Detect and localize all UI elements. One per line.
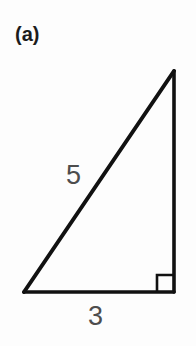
right-angle-marker-icon (157, 275, 174, 292)
base-length-label: 3 (88, 303, 103, 330)
right-triangle-diagram (0, 0, 196, 346)
triangle-hypotenuse-edge (24, 71, 174, 292)
triangle-outline (24, 71, 174, 292)
hypotenuse-length-label: 5 (66, 162, 81, 189)
figure-panel: (a) 5 3 (0, 0, 196, 346)
